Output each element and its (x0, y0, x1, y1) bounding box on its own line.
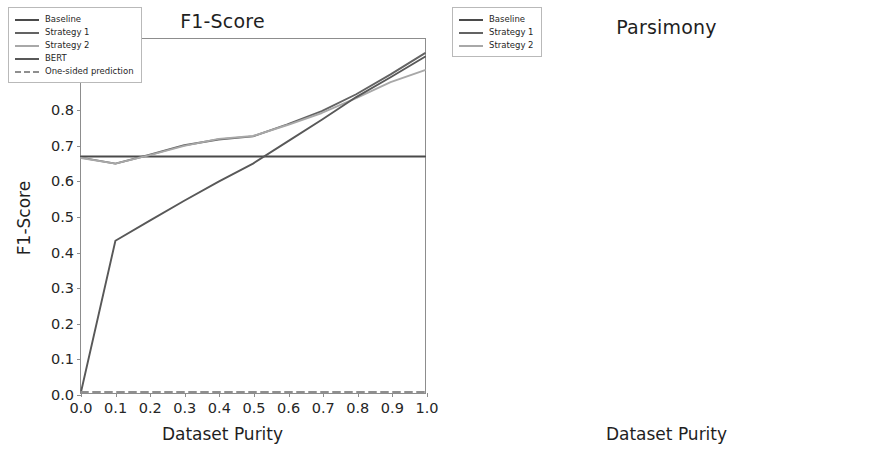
y-axis-tick-label: 0.3 (51, 280, 74, 296)
legend-item-label: Strategy 1 (45, 26, 90, 38)
x-axis-tick-mark (116, 393, 117, 397)
series-line (81, 57, 425, 392)
x-axis-tick-mark (185, 393, 186, 397)
legend-line-swatch (15, 39, 39, 51)
legend-item: BERT (15, 51, 134, 64)
legend-line-swatch (459, 26, 483, 38)
x-axis-tick-label: 0.7 (312, 400, 335, 416)
x-axis-tick-mark (289, 393, 290, 397)
legend-item-label: Strategy 2 (489, 39, 534, 51)
legend-f1-score: BaselineStrategy 1Strategy 2BERTOne-side… (8, 7, 142, 83)
x-axis-tick-label: 1.0 (415, 400, 438, 416)
plot-lines-f1-score (81, 39, 425, 393)
plot-area-f1-score: 0.00.10.20.30.40.50.60.70.80.91.00.00.10… (80, 38, 426, 394)
x-axis-tick-label: 0.4 (208, 400, 231, 416)
legend-line-swatch (459, 39, 483, 51)
x-axis-tick-label: 0.9 (381, 400, 404, 416)
y-axis-tick-label: 0.7 (51, 138, 74, 154)
legend-item-label: BERT (45, 52, 67, 64)
legend-line-swatch (15, 13, 39, 25)
legend-item: Strategy 1 (459, 25, 534, 38)
figure-canvas: F1-Score 0.00.10.20.30.40.50.60.70.80.91… (0, 0, 889, 456)
y-axis-tick-mark (77, 146, 81, 147)
x-axis-tick-label: 0.2 (139, 400, 162, 416)
legend-item-label: One-sided prediction (45, 65, 134, 77)
x-axis-tick-mark (150, 393, 151, 397)
y-axis-tick-mark (77, 181, 81, 182)
legend-line-swatch (459, 13, 483, 25)
xlabel-parsimony: Dataset Purity (444, 424, 889, 444)
legend-item-label: Strategy 1 (489, 26, 534, 38)
x-axis-tick-label: 0.5 (242, 400, 265, 416)
panel-parsimony: Parsimony 030060090012001500180021002400… (444, 0, 889, 456)
x-axis-tick-label: 0.6 (277, 400, 300, 416)
y-axis-tick-mark (77, 359, 81, 360)
y-axis-tick-label: 0.2 (51, 316, 74, 332)
y-axis-tick-label: 0.5 (51, 209, 74, 225)
y-axis-tick-label: 0.8 (51, 102, 74, 118)
x-axis-tick-label: 0.8 (346, 400, 369, 416)
legend-item-label: Baseline (45, 13, 81, 25)
x-axis-tick-mark (81, 393, 82, 397)
x-axis-tick-mark (219, 393, 220, 397)
legend-line-swatch (15, 65, 39, 77)
x-axis-tick-label: 0.0 (69, 400, 92, 416)
y-axis-tick-mark (77, 288, 81, 289)
panel-f1-score: F1-Score 0.00.10.20.30.40.50.60.70.80.91… (0, 0, 445, 456)
legend-parsimony: BaselineStrategy 1Strategy 2 (452, 7, 542, 57)
y-axis-tick-label: 0.4 (51, 245, 74, 261)
xlabel-f1-score: Dataset Purity (0, 424, 445, 444)
x-axis-tick-mark (427, 393, 428, 397)
ylabel-f1-score: F1-Score (14, 168, 34, 268)
x-axis-tick-label: 0.1 (104, 400, 127, 416)
x-axis-tick-label: 0.3 (173, 400, 196, 416)
legend-item: Baseline (459, 12, 534, 25)
legend-item-label: Baseline (489, 13, 525, 25)
legend-item: Strategy 2 (459, 38, 534, 51)
y-axis-tick-mark (77, 324, 81, 325)
y-axis-tick-mark (77, 217, 81, 218)
y-axis-tick-mark (77, 253, 81, 254)
legend-item: One-sided prediction (15, 64, 134, 77)
legend-line-swatch (15, 26, 39, 38)
x-axis-tick-mark (392, 393, 393, 397)
legend-item: Baseline (15, 12, 134, 25)
legend-item: Strategy 2 (15, 38, 134, 51)
x-axis-tick-mark (254, 393, 255, 397)
legend-line-swatch (15, 52, 39, 64)
legend-item: Strategy 1 (15, 25, 134, 38)
y-axis-tick-label: 0.6 (51, 173, 74, 189)
x-axis-tick-mark (323, 393, 324, 397)
y-axis-tick-mark (77, 110, 81, 111)
legend-item-label: Strategy 2 (45, 39, 90, 51)
y-axis-tick-label: 0.1 (51, 351, 74, 367)
x-axis-tick-mark (358, 393, 359, 397)
